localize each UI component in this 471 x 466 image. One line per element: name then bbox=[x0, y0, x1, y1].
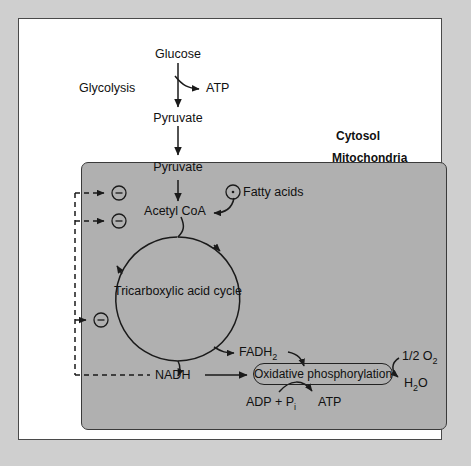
label-adp-pi: ADP + Pi bbox=[246, 396, 296, 412]
label-tca-cycle: Tricarboxylic acid cycle bbox=[114, 285, 242, 298]
label-half-o2: 1/2 O2 bbox=[402, 350, 438, 366]
label-atp-glycolysis: ATP bbox=[206, 82, 229, 95]
label-atp-oxphos: ATP bbox=[318, 396, 341, 409]
label-water-o: O bbox=[418, 376, 428, 390]
label-oxidative-phosphorylation: Oxidative phosphorylation bbox=[254, 364, 392, 384]
label-water: H2O bbox=[404, 377, 428, 393]
label-mitochondria: Mitochondria bbox=[332, 152, 407, 164]
label-glucose: Glucose bbox=[155, 48, 201, 61]
figure-canvas: Glucose Glycolysis ATP Pyruvate Cytosol … bbox=[0, 0, 471, 466]
oxidative-phosphorylation-box: Oxidative phosphorylation bbox=[253, 363, 393, 385]
label-nadh: NADH bbox=[155, 369, 190, 382]
label-glycolysis: Glycolysis bbox=[79, 82, 135, 95]
label-acetyl-coa: Acetyl CoA bbox=[144, 205, 206, 218]
label-pyruvate-cytosol: Pyruvate bbox=[153, 112, 202, 125]
label-fatty-acids: Fatty acids bbox=[243, 186, 303, 199]
label-adp-pi-text: ADP + P bbox=[246, 395, 294, 409]
label-pyruvate-mitochondria: Pyruvate bbox=[153, 161, 202, 174]
label-fadh2-text: FADH bbox=[239, 345, 272, 359]
label-cytosol: Cytosol bbox=[336, 130, 380, 142]
label-fadh2: FADH2 bbox=[239, 346, 277, 362]
label-water-h: H bbox=[404, 376, 413, 390]
label-adp-pi-subscript: i bbox=[294, 402, 296, 412]
label-half-o2-text: 1/2 O bbox=[402, 349, 433, 363]
label-fadh2-subscript: 2 bbox=[272, 352, 277, 362]
label-half-o2-subscript: 2 bbox=[433, 356, 438, 366]
